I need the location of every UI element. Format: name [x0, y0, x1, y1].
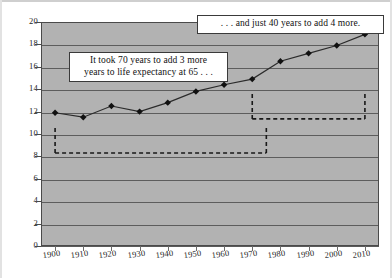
x-tick-label-1990: 1990 — [296, 248, 315, 260]
x-tick-label-1900: 1900 — [42, 248, 61, 260]
x-tick-mark-1990 — [309, 246, 310, 251]
y-tick-label-10: 10 — [8, 128, 38, 138]
x-tick-mark-1900 — [55, 246, 56, 251]
y-tick-label-18: 18 — [8, 38, 38, 48]
x-tick-label-1930: 1930 — [127, 248, 146, 260]
annotation-callout-top: . . . and just 40 years to add 4 more. — [197, 15, 384, 34]
y-tick-label-14: 14 — [8, 83, 38, 93]
x-tick-mark-1940 — [168, 246, 169, 251]
y-tick-label-2: 2 — [8, 218, 38, 228]
data-point-1980 — [277, 58, 283, 64]
data-point-1900 — [52, 110, 58, 116]
x-tick-label-1940: 1940 — [155, 248, 174, 260]
x-tick-label-1910: 1910 — [70, 248, 89, 260]
data-point-1970 — [249, 76, 255, 82]
x-tick-label-2010: 2010 — [352, 248, 371, 260]
bracket-group — [55, 93, 365, 153]
annotation-callout-left: It took 70 years to add 3 more years to … — [69, 52, 228, 82]
data-point-1990 — [305, 50, 311, 56]
data-point-2000 — [334, 42, 340, 48]
x-tick-mark-2000 — [337, 246, 338, 251]
data-point-1910 — [80, 114, 86, 120]
y-tick-label-12: 12 — [8, 106, 38, 116]
x-axis-baseline — [41, 246, 379, 247]
x-tick-mark-1960 — [224, 246, 225, 251]
data-point-1920 — [108, 103, 114, 109]
x-tick-label-1960: 1960 — [211, 248, 230, 260]
x-tick-mark-1950 — [196, 246, 197, 251]
data-point-1940 — [165, 99, 171, 105]
y-tick-label-4: 4 — [8, 195, 38, 205]
y-tick-label-0: 0 — [8, 240, 38, 250]
x-tick-mark-1910 — [83, 246, 84, 251]
x-tick-mark-2010 — [365, 246, 366, 251]
x-tick-label-1950: 1950 — [183, 248, 202, 260]
data-point-1960 — [221, 82, 227, 88]
x-tick-label-1970: 1970 — [239, 248, 258, 260]
y-tick-label-6: 6 — [8, 173, 38, 183]
x-tick-label-1980: 1980 — [267, 248, 286, 260]
data-point-1950 — [193, 88, 199, 94]
annotation-top-line1: . . . and just 40 years to add 4 more. — [203, 18, 378, 30]
annotation-left-line1: It took 70 years to add 3 more — [75, 55, 222, 67]
figure-top-edge — [0, 0, 392, 2]
x-tick-label-2000: 2000 — [324, 248, 343, 260]
y-tick-label-20: 20 — [8, 16, 38, 26]
x-tick-mark-1920 — [111, 246, 112, 251]
x-tick-mark-1980 — [280, 246, 281, 251]
data-point-1930 — [136, 108, 142, 114]
x-tick-label-1920: 1920 — [98, 248, 117, 260]
chart-figure: 02468101214161820 1900191019201930194019… — [0, 0, 392, 278]
x-tick-mark-1930 — [140, 246, 141, 251]
figure-left-edge — [0, 0, 2, 278]
y-tick-label-16: 16 — [8, 61, 38, 71]
y-tick-label-8: 8 — [8, 150, 38, 160]
x-tick-mark-1970 — [252, 246, 253, 251]
annotation-left-line2: years to life expectancy at 65 . . . — [75, 67, 222, 79]
